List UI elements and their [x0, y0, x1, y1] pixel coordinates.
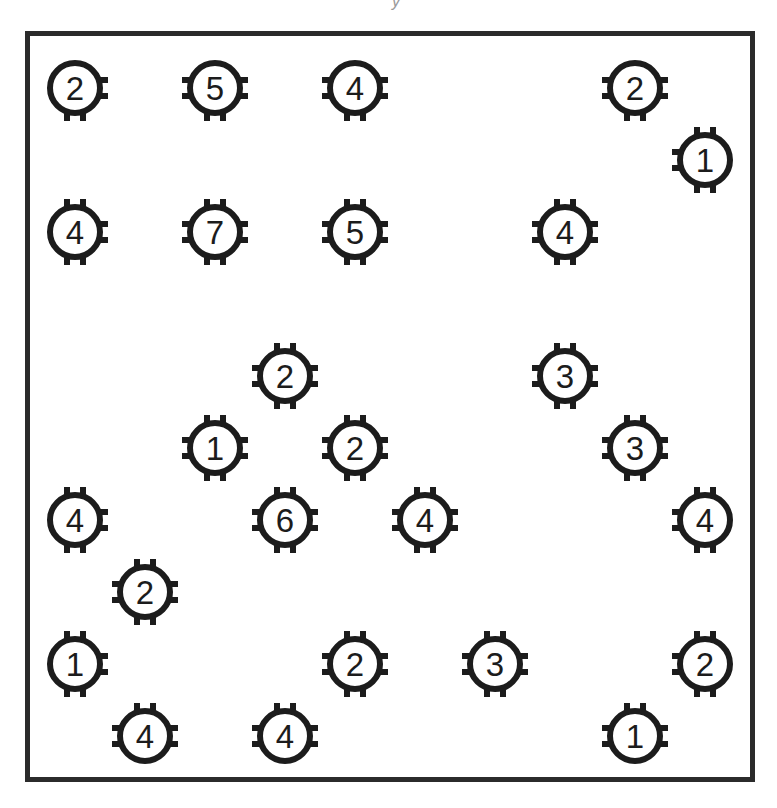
island-circle: 4	[537, 204, 593, 260]
island-value: 2	[346, 432, 364, 465]
island-3-6[interactable]: 6	[257, 492, 313, 548]
island-0-2[interactable]: 4	[47, 204, 103, 260]
island-value: 7	[206, 216, 224, 249]
island-value: 3	[486, 648, 504, 681]
island-value: 3	[626, 432, 644, 465]
island-value: 2	[276, 360, 294, 393]
island-circle: 1	[187, 420, 243, 476]
island-4-8[interactable]: 2	[327, 636, 383, 692]
island-3-4[interactable]: 2	[257, 348, 313, 404]
island-value: 4	[276, 720, 294, 753]
island-value: 1	[206, 432, 224, 465]
island-circle: 2	[677, 636, 733, 692]
island-value: 2	[626, 72, 644, 105]
island-circle: 2	[257, 348, 313, 404]
island-circle: 4	[397, 492, 453, 548]
island-0-6[interactable]: 4	[47, 492, 103, 548]
island-value: 4	[416, 504, 434, 537]
island-value: 2	[66, 72, 84, 105]
island-circle: 4	[257, 708, 313, 764]
island-0-0[interactable]: 2	[47, 60, 103, 116]
island-value: 2	[346, 648, 364, 681]
island-7-4[interactable]: 3	[537, 348, 593, 404]
title-fragment: y	[392, 0, 400, 10]
island-circle: 4	[117, 708, 173, 764]
island-circle: 4	[47, 492, 103, 548]
island-value: 1	[626, 720, 644, 753]
island-circle: 4	[677, 492, 733, 548]
island-value: 4	[136, 720, 154, 753]
island-4-5[interactable]: 2	[327, 420, 383, 476]
island-circle: 1	[677, 132, 733, 188]
island-value: 4	[696, 504, 714, 537]
island-9-8[interactable]: 2	[677, 636, 733, 692]
island-value: 4	[346, 72, 364, 105]
island-9-1[interactable]: 1	[677, 132, 733, 188]
island-7-2[interactable]: 4	[537, 204, 593, 260]
island-circle: 3	[607, 420, 663, 476]
island-4-2[interactable]: 5	[327, 204, 383, 260]
island-value: 1	[66, 648, 84, 681]
island-value: 6	[276, 504, 294, 537]
island-3-9[interactable]: 4	[257, 708, 313, 764]
island-value: 5	[346, 216, 364, 249]
island-circle: 7	[187, 204, 243, 260]
island-circle: 2	[327, 636, 383, 692]
island-circle: 3	[467, 636, 523, 692]
island-4-0[interactable]: 4	[327, 60, 383, 116]
island-value: 3	[556, 360, 574, 393]
island-value: 2	[696, 648, 714, 681]
island-circle: 1	[47, 636, 103, 692]
island-value: 4	[66, 504, 84, 537]
island-value: 2	[136, 576, 154, 609]
island-0-8[interactable]: 1	[47, 636, 103, 692]
island-circle: 1	[607, 708, 663, 764]
island-9-6[interactable]: 4	[677, 492, 733, 548]
island-8-5[interactable]: 3	[607, 420, 663, 476]
island-6-8[interactable]: 3	[467, 636, 523, 692]
island-5-6[interactable]: 4	[397, 492, 453, 548]
island-2-2[interactable]: 7	[187, 204, 243, 260]
island-value: 4	[556, 216, 574, 249]
island-2-0[interactable]: 5	[187, 60, 243, 116]
island-circle: 4	[47, 204, 103, 260]
island-2-5[interactable]: 1	[187, 420, 243, 476]
island-circle: 4	[327, 60, 383, 116]
puzzle-board	[25, 31, 755, 782]
island-circle: 5	[327, 204, 383, 260]
island-circle: 5	[187, 60, 243, 116]
island-circle: 6	[257, 492, 313, 548]
island-8-9[interactable]: 1	[607, 708, 663, 764]
island-1-7[interactable]: 2	[117, 564, 173, 620]
island-circle: 2	[327, 420, 383, 476]
island-value: 4	[66, 216, 84, 249]
island-circle: 2	[117, 564, 173, 620]
island-circle: 2	[47, 60, 103, 116]
island-value: 5	[206, 72, 224, 105]
island-8-0[interactable]: 2	[607, 60, 663, 116]
island-value: 1	[696, 144, 714, 177]
island-1-9[interactable]: 4	[117, 708, 173, 764]
island-circle: 3	[537, 348, 593, 404]
island-circle: 2	[607, 60, 663, 116]
